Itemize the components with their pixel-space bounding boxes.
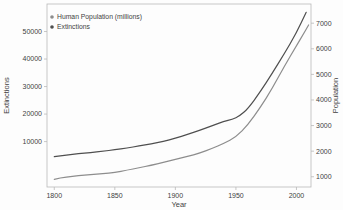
left-y-axis-title: Extinctions — [2, 77, 11, 114]
left-y-tick-label: 40000 — [23, 55, 43, 62]
x-tick-label: 1800 — [46, 192, 62, 199]
plot-border — [47, 4, 311, 187]
extinctions-line — [54, 12, 306, 156]
x-axis-title: Year — [171, 200, 187, 209]
right-y-tick-label: 3000 — [316, 122, 332, 129]
x-tick-label: 1950 — [228, 192, 244, 199]
right-y-tick-label: 6000 — [316, 45, 332, 52]
x-tick-label: 1850 — [107, 192, 123, 199]
left-y-tick-label: 30000 — [23, 83, 43, 90]
right-y-axis-title: Population — [331, 78, 340, 113]
population-extinctions-chart: 1800185019001950200010000200003000040000… — [0, 0, 343, 210]
legend-marker-human-population-icon — [50, 15, 54, 19]
right-y-tick-label: 1000 — [316, 173, 332, 180]
population-line — [54, 25, 308, 179]
right-y-tick-label: 2000 — [316, 148, 332, 155]
legend-marker-extinctions-icon — [50, 25, 54, 29]
legend-label-human-population: Human Population (millions) — [57, 13, 142, 21]
right-y-tick-label: 5000 — [316, 71, 332, 78]
left-y-tick-label: 10000 — [23, 138, 43, 145]
x-tick-label: 1900 — [168, 192, 184, 199]
left-y-tick-label: 20000 — [23, 110, 43, 117]
right-y-tick-label: 7000 — [316, 20, 332, 27]
legend-label-extinctions: Extinctions — [57, 23, 90, 30]
left-y-tick-label: 50000 — [23, 28, 43, 35]
chart-container: 1800185019001950200010000200003000040000… — [0, 0, 343, 210]
x-tick-label: 2000 — [289, 192, 305, 199]
right-y-tick-label: 4000 — [316, 96, 332, 103]
